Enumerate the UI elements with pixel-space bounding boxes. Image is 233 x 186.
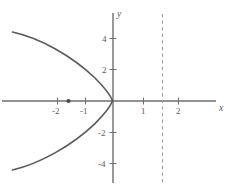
y-tick-label-4: 4: [102, 35, 107, 44]
graph-figure: -2 -1 1 2 -4 -2 2 4 y x: [0, 0, 233, 186]
x-tick-label-2: 2: [176, 107, 181, 116]
marked-point: [66, 99, 70, 103]
plot-area: [0, 0, 233, 186]
y-tick-label-2: 2: [102, 66, 107, 75]
y-axis-label: y: [117, 10, 121, 20]
y-tick-label-minus2: -2: [98, 129, 106, 138]
x-tick-label-minus2: -2: [52, 107, 60, 116]
y-tick-label-minus4: -4: [98, 160, 106, 169]
x-axis-label: x: [219, 104, 223, 114]
x-tick-label-minus1: -1: [80, 107, 88, 116]
x-tick-label-1: 1: [141, 107, 146, 116]
